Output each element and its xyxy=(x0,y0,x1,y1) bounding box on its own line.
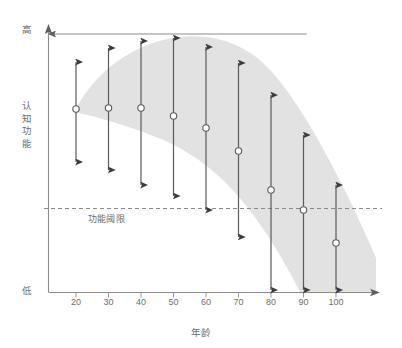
cognitive-function-age-chart: 高 低 认知功能 年龄 功能阈限 20 30 40 50 60 70 80 90… xyxy=(0,0,402,348)
x-tick-label: 60 xyxy=(201,297,211,307)
data-point-age-40 xyxy=(138,105,144,111)
data-point-age-30 xyxy=(105,105,111,111)
y-axis-high-label: 高 xyxy=(22,22,32,36)
x-tick-label: 20 xyxy=(71,297,81,307)
x-tick-label: 50 xyxy=(168,297,178,307)
data-point-age-60 xyxy=(203,125,209,131)
x-axis-title: 年龄 xyxy=(0,325,402,339)
chart-canvas xyxy=(0,0,402,348)
x-tick-label: 90 xyxy=(298,297,308,307)
data-point-age-80 xyxy=(268,187,274,193)
data-point-age-90 xyxy=(300,207,306,213)
x-tick-label: 100 xyxy=(328,297,343,307)
cognitive-range-band xyxy=(74,36,376,292)
x-tick-label: 80 xyxy=(266,297,276,307)
data-point-age-20 xyxy=(73,106,79,112)
data-point-age-50 xyxy=(170,113,176,119)
x-tick-label: 40 xyxy=(136,297,146,307)
threshold-label: 功能阈限 xyxy=(88,212,125,225)
data-point-age-100 xyxy=(333,240,339,246)
x-tick-label: 30 xyxy=(103,297,113,307)
y-axis-title: 认知功能 xyxy=(21,100,33,150)
x-tick-label: 70 xyxy=(233,297,243,307)
data-point-age-70 xyxy=(235,148,241,154)
y-axis-low-label: 低 xyxy=(22,283,32,297)
